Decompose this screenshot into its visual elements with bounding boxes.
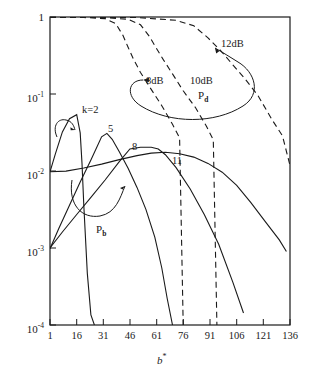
curve-label-k2: k=2 <box>82 104 98 115</box>
group-label-pd-sub: d <box>204 95 208 104</box>
x-tick-label-2: 31 <box>91 330 115 341</box>
x-tick-label-4: 61 <box>145 330 169 341</box>
x-axis-title-sup: * <box>163 352 167 361</box>
x-tick-label-0: 1 <box>38 330 62 341</box>
group-label-pd: Pd <box>198 90 208 105</box>
group-label-pb-sub: b <box>102 229 106 238</box>
curve-pd-10db <box>50 18 217 326</box>
y-tick-label-1e-1: 10-1 <box>2 89 44 104</box>
curve-label-k5: 5 <box>108 123 113 134</box>
curve-label-k8: 8 <box>132 141 137 152</box>
y-tick-label-1: 1 <box>2 12 44 23</box>
x-tick-label-1: 16 <box>65 330 89 341</box>
pb-leader-line <box>71 180 125 216</box>
x-tick-label-3: 46 <box>118 330 142 341</box>
figure-semilog-chart: 1 10-1 10-2 10-3 10-4 1 16 31 46 61 76 9… <box>0 0 317 379</box>
x-axis-ticks <box>50 319 290 325</box>
x-tick-label-5: 76 <box>171 330 195 341</box>
curve-pd-12db <box>50 18 290 164</box>
x-tick-label-9: 136 <box>278 330 302 341</box>
chart-canvas <box>0 0 317 379</box>
y-tick-label-1e-2: 10-2 <box>2 166 44 181</box>
x-tick-label-7: 106 <box>225 330 249 341</box>
x-tick-label-8: 121 <box>251 330 275 341</box>
curve-label-k11: 11 <box>172 155 182 166</box>
x-axis-title: b* <box>157 352 167 366</box>
curve-label-10db: 10dB <box>190 75 213 86</box>
curve-label-8db: 8dB <box>146 75 164 86</box>
group-label-pb: Pb <box>96 224 106 239</box>
y-axis-ticks <box>50 17 56 325</box>
x-tick-label-6: 91 <box>198 330 222 341</box>
y-tick-label-1e-3: 10-3 <box>2 243 44 258</box>
curve-label-12db: 12dB <box>221 38 244 49</box>
